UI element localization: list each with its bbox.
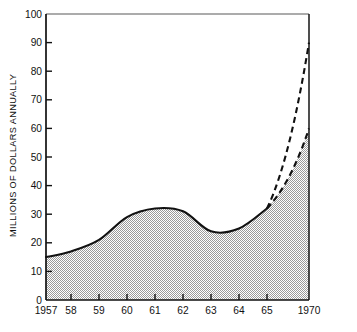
y-tick-label: 20 (31, 237, 43, 248)
y-tick-label: 30 (31, 209, 43, 220)
chart-container: MILLIONS OF DOLLARS ANNUALLY 01020304050… (0, 0, 357, 332)
x-tick-label: 65 (261, 305, 273, 316)
x-tick-label: 63 (205, 305, 217, 316)
y-tick-label: 70 (31, 94, 43, 105)
y-axis-title: MILLIONS OF DOLLARS ANNUALLY (8, 74, 18, 237)
y-tick-label: 80 (31, 66, 43, 77)
y-tick-label: 50 (31, 152, 43, 163)
y-tick-label: 40 (31, 180, 43, 191)
x-tick-label: 60 (121, 305, 133, 316)
x-tick-label: 58 (65, 305, 77, 316)
x-tick-label: 62 (177, 305, 189, 316)
y-tick-label: 0 (36, 295, 42, 306)
x-tick-label: 64 (233, 305, 245, 316)
x-tick-label: 1970 (298, 305, 321, 316)
y-tick-label: 100 (25, 9, 42, 20)
y-tick-label: 10 (31, 266, 43, 277)
x-tick-label: 61 (149, 305, 161, 316)
x-tick-label: 1957 (35, 305, 58, 316)
y-tick-label: 90 (31, 37, 43, 48)
y-tick-label: 60 (31, 123, 43, 134)
x-tick-label: 59 (93, 305, 105, 316)
area-chart: MILLIONS OF DOLLARS ANNUALLY 01020304050… (0, 0, 357, 332)
